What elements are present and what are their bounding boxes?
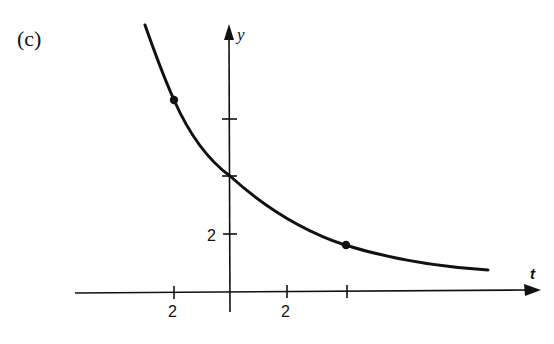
x-tick-label-neg2: 2	[168, 303, 177, 320]
y-axis-arrow-icon	[224, 24, 234, 40]
x-axis-label: t	[530, 265, 536, 282]
y-tick-label-2: 2	[207, 227, 216, 244]
point-t-neg2	[170, 96, 178, 104]
point-t-4	[342, 241, 350, 249]
y-axis-label: y	[235, 25, 245, 44]
exponential-decay-figure: y t 2 2 2	[0, 0, 554, 344]
x-axis	[75, 290, 528, 293]
x-tick-label-2: 2	[281, 303, 290, 320]
x-axis-arrow-icon	[524, 284, 541, 296]
decay-curve	[145, 25, 488, 270]
